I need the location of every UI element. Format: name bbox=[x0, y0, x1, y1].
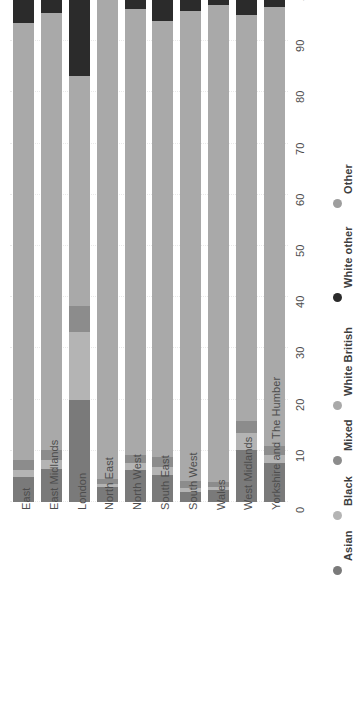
legend-label: White other bbox=[342, 227, 354, 289]
legend-label: Black bbox=[342, 476, 354, 506]
legend-marker-icon bbox=[333, 293, 342, 302]
legend-marker-icon bbox=[333, 511, 342, 520]
chart-canvas: EastEast MidlandsLondonNorth EastNorth W… bbox=[0, 0, 357, 718]
legend-label: Other bbox=[342, 164, 354, 194]
legend-marker-icon bbox=[333, 456, 342, 465]
legend-marker-icon bbox=[333, 566, 342, 575]
chart-legend: AsianBlackMixedWhite BritishWhite otherO… bbox=[0, 0, 357, 718]
legend-marker-icon bbox=[333, 199, 342, 208]
legend-label: Mixed bbox=[342, 419, 354, 451]
legend-marker-icon bbox=[333, 401, 342, 410]
legend-label: Asian bbox=[342, 531, 354, 561]
legend-label: White British bbox=[342, 327, 354, 396]
